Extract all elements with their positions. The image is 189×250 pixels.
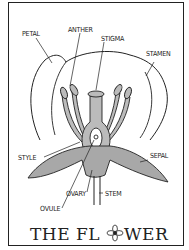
flower-diagram: PETAL ANTHER STIGMA STAMEN STYLE SEPAL O… xyxy=(0,0,189,250)
flower-icon xyxy=(107,225,123,241)
label-stigma: STIGMA xyxy=(101,35,125,43)
stem-shape xyxy=(94,176,100,205)
label-stamen: STAMEN xyxy=(146,50,171,58)
label-petal: PETAL xyxy=(22,30,41,38)
stigma-shape xyxy=(88,91,104,97)
label-style: STYLE xyxy=(18,154,36,162)
sepal-shape xyxy=(28,146,168,182)
ovule-dot xyxy=(94,135,98,139)
label-stem: STEM xyxy=(105,190,121,198)
title-part-2: WER xyxy=(124,224,169,244)
label-ovule: OVULE xyxy=(40,205,60,213)
label-sepal: SEPAL xyxy=(150,152,169,160)
title-part-1: THE FL xyxy=(30,224,100,244)
label-ovary: OVARY xyxy=(66,190,86,198)
label-anther: ANTHER xyxy=(68,26,94,34)
